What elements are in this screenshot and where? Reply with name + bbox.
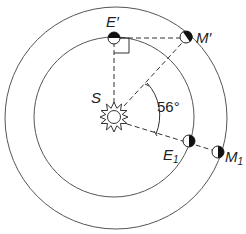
sun-icon	[100, 102, 128, 132]
label-earth-prime: E′	[106, 13, 120, 30]
mars-prime-icon	[180, 31, 193, 43]
label-earth-1-sub: 1	[173, 154, 179, 165]
orbit-diagram: S E′ M′ 56° E1 M1	[0, 0, 246, 234]
label-earth-1: E1	[163, 146, 179, 165]
label-mars-1-sub: 1	[238, 156, 244, 167]
sun-to-mars-prime-line	[124, 43, 182, 106]
earth-prime-icon	[108, 32, 120, 44]
label-mars-1: M1	[225, 148, 243, 167]
label-angle: 56°	[157, 98, 180, 115]
label-sun: S	[91, 89, 101, 106]
label-mars-prime: M′	[196, 29, 212, 46]
mars-1-icon	[212, 146, 224, 158]
label-mars-1-main: M	[225, 148, 238, 165]
earth-1-icon	[183, 135, 195, 147]
